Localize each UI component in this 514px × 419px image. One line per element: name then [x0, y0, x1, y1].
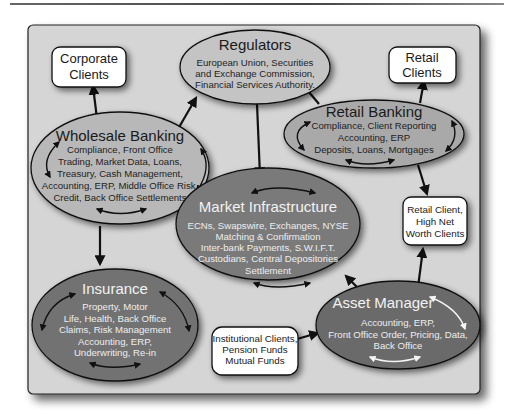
retail-banking-line-2: Accounting, ERP [338, 132, 411, 143]
insurance-line-2: Life, Health, Back Office [64, 313, 167, 324]
retail-clients-line-1: Retail [405, 50, 438, 65]
regulators-title: Regulators [219, 36, 292, 53]
asset-manager-line-1: Accounting, ERP, [361, 317, 435, 328]
institutional-line-2: Pension Funds [222, 344, 287, 355]
node-corporate-clients: Corporate Clients [52, 47, 126, 87]
wholesale-line-1: Compliance, Front Office [67, 144, 173, 155]
regulators-line-3: Financial Services Authority. [195, 79, 315, 90]
wholesale-line-2: Trading, Market Data, Loans, [58, 156, 182, 167]
insurance-line-3: Claims, Risk Management [59, 324, 171, 335]
wholesale-line-5: Credit, Back Office Settlements [53, 192, 186, 203]
wholesale-line-3: Treasury, Cash Management, [57, 168, 183, 179]
asset-manager-line-3: Back Office [374, 340, 423, 351]
insurance-line-5: Underwriting, Re-in [74, 347, 156, 358]
market-infrastructure-line-4: Custodians, Central Depositories [198, 253, 338, 264]
hnw-line-2: High Net [416, 216, 454, 227]
node-insurance: Insurance Property, Motor Life, Health, … [32, 269, 198, 381]
market-infrastructure-line-5: Settlement [245, 265, 291, 276]
regulators-line-1: European Union, Securities [197, 57, 314, 68]
node-regulators: Regulators European Union, Securities an… [180, 30, 330, 104]
market-infrastructure-title: Market Infrastructure [199, 198, 337, 215]
wholesale-line-4: Accounting, ERP, Middle Office Risk, [42, 180, 198, 191]
diagram-canvas: Regulators European Union, Securities an… [0, 0, 514, 419]
wholesale-title: Wholesale Banking [56, 127, 184, 144]
insurance-title: Insurance [82, 280, 148, 297]
insurance-line-4: Accounting, ERP, [78, 336, 152, 347]
market-infrastructure-line-1: ECNs, Swapswire, Exchanges, NYSE [187, 220, 348, 231]
asset-manager-line-2: Front Office Order, Pricing, Data, [328, 329, 468, 340]
corporate-clients-line-1: Corporate [60, 51, 118, 66]
retail-banking-line-1: Compliance, Client Reporting [312, 120, 437, 131]
corporate-clients-line-2: Clients [69, 67, 109, 82]
regulators-line-2: and Exchange Commission, [195, 68, 314, 79]
retail-banking-title: Retail Banking [326, 103, 423, 120]
node-retail-clients: Retail Clients [389, 47, 456, 83]
asset-manager-title: Asset Manager [333, 294, 434, 311]
node-retail-hnw-clients: Retail Client, High Net Worth Clients [403, 197, 467, 245]
node-retail-banking: Retail Banking Compliance, Client Report… [284, 100, 464, 168]
market-infrastructure-line-3: Inter-bank Payments, S.W.I.F.T. [201, 242, 335, 253]
market-infrastructure-line-2: Matching & Confirmation [215, 231, 320, 242]
institutional-line-3: Mutual Funds [225, 355, 284, 366]
hnw-line-3: Worth Clients [406, 228, 465, 239]
retail-clients-line-2: Clients [402, 65, 442, 80]
insurance-line-1: Property, Motor [82, 301, 148, 312]
retail-banking-line-3: Deposits, Loans, Mortgages [314, 144, 434, 155]
node-asset-manager: Asset Manager Accounting, ERP, Front Off… [316, 281, 480, 369]
hnw-line-1: Retail Client, [407, 204, 463, 215]
institutional-line-1: Institutional Clients, [213, 333, 298, 344]
node-institutional-clients: Institutional Clients, Pension Funds Mut… [212, 327, 298, 375]
